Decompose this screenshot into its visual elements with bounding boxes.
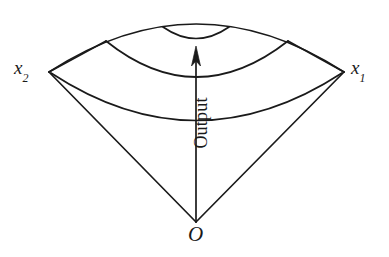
axis-label-x1: x1 [351,58,365,81]
axis-label-x2: x2 [14,58,28,81]
output-axis-label: Output [191,86,209,160]
origin-label: O [188,224,203,245]
right-boundary-line [196,72,344,222]
axis-label-x1-subscript: 1 [359,71,365,85]
small-top-arc [163,27,229,39]
left-boundary-line [49,72,196,222]
right-rim-segment [288,41,344,72]
figure-canvas: x2 x1 O Output [0,0,389,257]
axis-label-x2-subscript: 2 [22,71,28,85]
left-rim-segment [49,41,106,72]
